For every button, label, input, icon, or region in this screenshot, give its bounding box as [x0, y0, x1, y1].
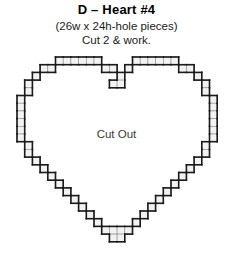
header: D – Heart #4 (26w x 24h-hole pieces) Cut… — [0, 0, 233, 47]
grid-cell — [210, 119, 218, 127]
grid-cell — [102, 226, 110, 234]
grid-cell — [117, 72, 125, 80]
grid-cell — [48, 65, 56, 73]
grid-cell — [210, 126, 218, 134]
grid-cell — [202, 149, 210, 157]
cut-instruction-label: Cut 2 & work. — [0, 33, 233, 47]
grid-cell — [109, 65, 117, 73]
grid-cell — [117, 234, 125, 242]
grid-cell — [148, 203, 156, 211]
grid-cell — [25, 149, 33, 157]
grid-cell — [109, 234, 117, 242]
grid-cell — [17, 111, 25, 119]
grid-cell — [17, 126, 25, 134]
pattern-page: D – Heart #4 (26w x 24h-hole pieces) Cut… — [0, 0, 233, 256]
grid-cell — [202, 88, 210, 96]
grid-cell — [171, 57, 179, 65]
grid-cell — [79, 203, 87, 211]
grid-cell — [156, 196, 164, 204]
grid-cell — [17, 134, 25, 142]
grid-cell — [140, 57, 148, 65]
grid-cell — [109, 226, 117, 234]
grid-cell — [163, 188, 171, 196]
grid-cell — [210, 103, 218, 111]
grid-cell — [148, 57, 156, 65]
grid-cell — [25, 88, 33, 96]
grid-cell — [117, 226, 125, 234]
grid-cell — [17, 119, 25, 127]
grid-cell — [186, 165, 194, 173]
grid-cell — [202, 142, 210, 150]
grid-cell — [210, 111, 218, 119]
grid-cell — [86, 211, 94, 219]
grid-cell — [40, 65, 48, 73]
grid-cell — [163, 57, 171, 65]
grid-cell — [63, 57, 71, 65]
grid-cell — [25, 142, 33, 150]
grid-cell — [156, 57, 164, 65]
grid-cell — [32, 72, 40, 80]
grid-cell — [86, 57, 94, 65]
grid-cell — [56, 57, 64, 65]
heart-pattern-diagram — [0, 50, 233, 256]
grid-cell — [94, 219, 102, 227]
grid-cell — [194, 157, 202, 165]
piece-dimensions-label: (26w x 24h-hole pieces) — [0, 19, 233, 33]
grid-cell — [194, 72, 202, 80]
grid-cell — [71, 196, 79, 204]
grid-cells-layer — [17, 57, 217, 242]
grid-cell — [94, 57, 102, 65]
grid-cell — [210, 134, 218, 142]
heart-outline-svg — [0, 50, 233, 256]
grid-cell — [140, 211, 148, 219]
grid-cell — [210, 96, 218, 104]
grid-cell — [48, 173, 56, 181]
grid-cell — [133, 219, 141, 227]
grid-cell — [102, 65, 110, 73]
grid-cell — [186, 65, 194, 73]
grid-cell — [56, 180, 64, 188]
grid-cell — [125, 65, 133, 73]
grid-cell — [179, 173, 187, 181]
grid-cell — [179, 65, 187, 73]
grid-cell — [202, 80, 210, 88]
grid-cell — [79, 57, 87, 65]
grid-cell — [133, 57, 141, 65]
page-title: D – Heart #4 — [0, 2, 233, 18]
grid-cell — [171, 180, 179, 188]
grid-cell — [117, 80, 125, 88]
grid-cell — [109, 80, 117, 88]
grid-cell — [17, 103, 25, 111]
grid-cell — [17, 96, 25, 104]
grid-cell — [71, 57, 79, 65]
grid-cell — [63, 188, 71, 196]
grid-cell — [125, 226, 133, 234]
grid-cell — [25, 80, 33, 88]
grid-cell — [32, 157, 40, 165]
grid-cell — [40, 165, 48, 173]
